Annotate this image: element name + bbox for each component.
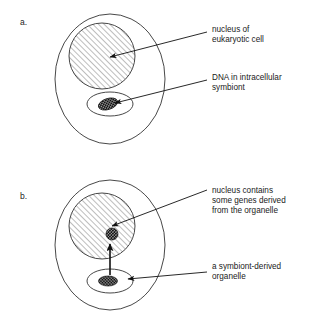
panel-a-nucleus-callout-line-1: nucleus of bbox=[212, 25, 250, 34]
panel-b: b. nucleus contains some genes derived f… bbox=[20, 180, 286, 310]
panel-b-nucleus-callout-line-2: some genes derived bbox=[212, 196, 286, 205]
panel-a-letter: a. bbox=[20, 17, 27, 27]
panel-a-nucleus-callout-line-2: eukaryotic cell bbox=[212, 35, 264, 44]
panel-b-nucleus-callout-line-3: from the organelle bbox=[212, 206, 278, 215]
panel-b-organelle-dna bbox=[99, 276, 118, 286]
panel-b-letter: b. bbox=[20, 191, 27, 201]
panel-a: a. nucleus of eukaryotic cell DNA in int… bbox=[20, 14, 282, 144]
panel-b-transferred-gene bbox=[106, 228, 118, 240]
panel-b-organelle-callout-line-2: organelle bbox=[212, 272, 246, 281]
panel-b-nucleus-callout-line-1: nucleus contains bbox=[212, 186, 273, 195]
endosymbiosis-diagram: a. nucleus of eukaryotic cell DNA in int… bbox=[0, 0, 322, 320]
panel-a-symbiont-callout-line-2: symbiont bbox=[212, 83, 245, 92]
figure-root: a. nucleus of eukaryotic cell DNA in int… bbox=[0, 0, 322, 320]
panel-b-nucleus bbox=[69, 193, 135, 259]
panel-b-organelle-callout-line-1: a symbiont-derived bbox=[212, 262, 282, 271]
panel-a-nucleus bbox=[69, 23, 135, 89]
panel-a-symbiont-callout-line-1: DNA in intracellular bbox=[212, 73, 282, 82]
